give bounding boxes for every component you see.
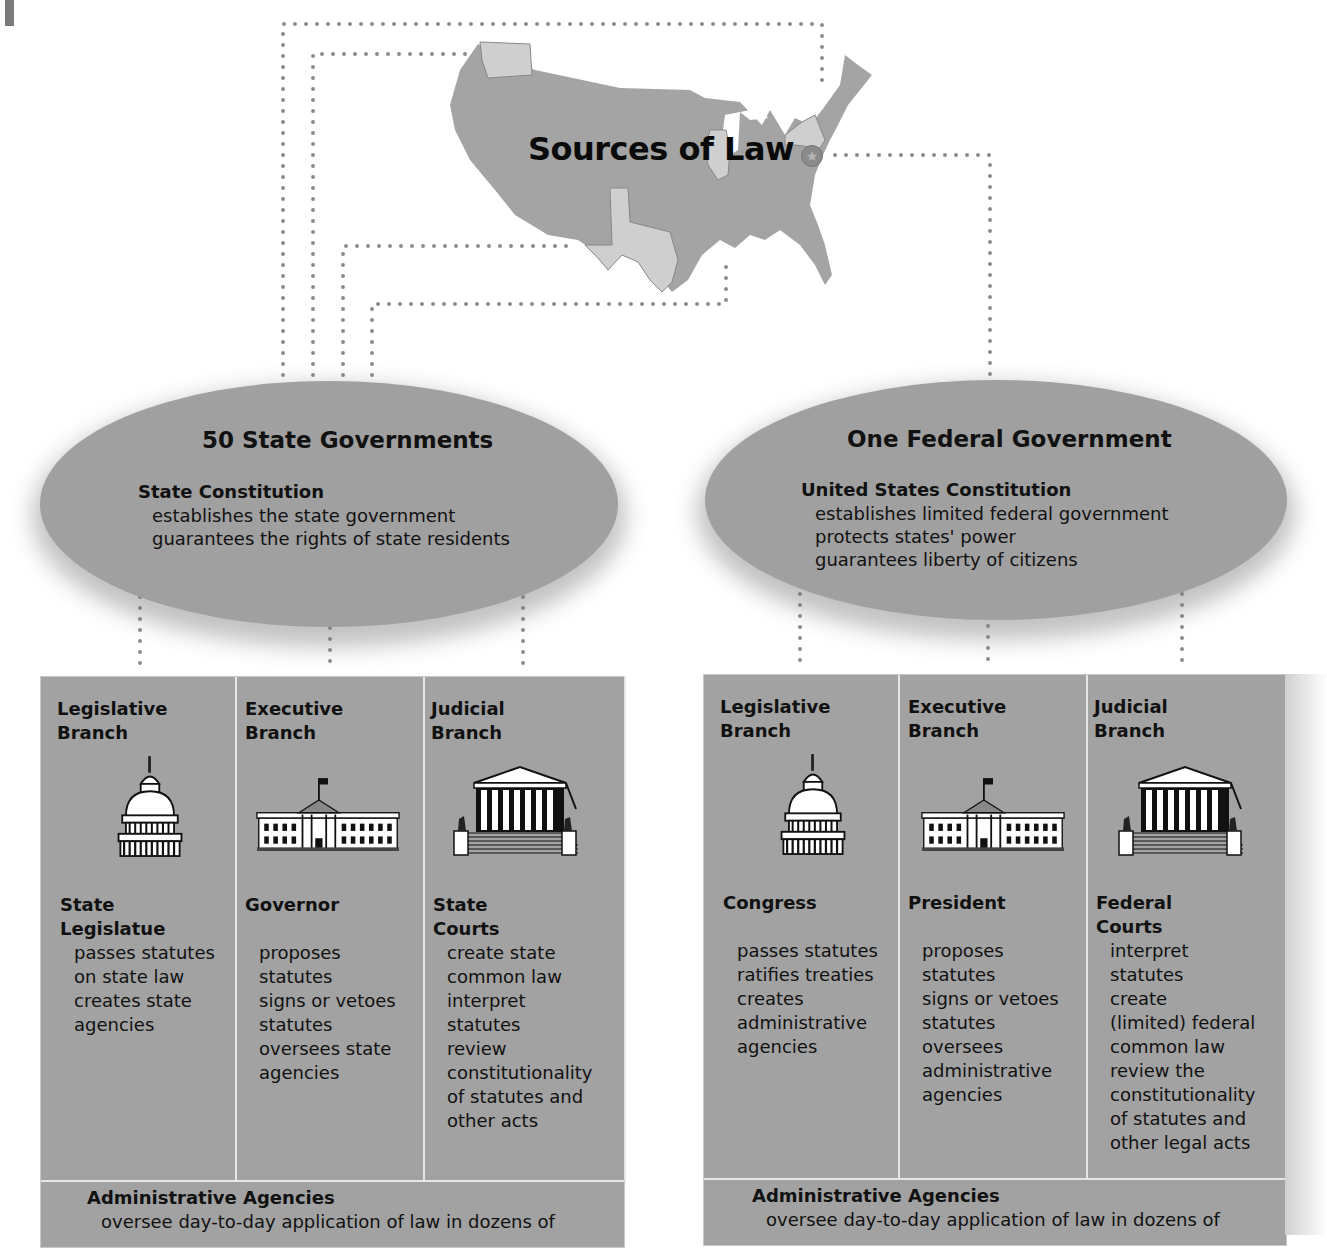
state-executive-column: Executive Branch Governor proposes statu…	[237, 677, 425, 1180]
capital-star-icon: ★	[801, 145, 823, 167]
branch-title: Executive Branch	[908, 695, 1006, 743]
state-judicial-column: Judicial Branch State Courts create stat…	[425, 677, 626, 1180]
state-constitution-line: guarantees the rights of state residents	[152, 528, 510, 549]
supreme-court-icon	[1114, 761, 1246, 861]
branch-actor: State Legislatue	[60, 893, 165, 941]
state-agencies-text: oversee day-to-day application of law in…	[101, 1211, 555, 1232]
branch-actor: President	[908, 891, 1006, 915]
branch-title: Judicial Branch	[1094, 695, 1168, 743]
branch-duties: proposes statutes signs or vetoes statut…	[259, 941, 396, 1085]
branch-title: Legislative Branch	[57, 697, 167, 745]
branch-actor: Governor	[245, 893, 339, 917]
us-constitution-line: guarantees liberty of citizens	[815, 549, 1078, 570]
branch-actor: Federal Courts	[1096, 891, 1172, 939]
state-branches-panel: Legislative Branch State Legislatue pass…	[40, 676, 625, 1248]
federal-government-title: One Federal Government	[847, 426, 1172, 452]
branch-duties: create state common law interpret statut…	[447, 941, 592, 1133]
page-edge-fade	[1285, 674, 1327, 1235]
page-corner-mark	[5, 0, 14, 26]
branch-actor: State Courts	[433, 893, 500, 941]
capitol-dome-icon	[113, 755, 187, 859]
main-title: Sources of Law	[528, 130, 794, 168]
us-constitution-line: establishes limited federal government	[815, 503, 1169, 524]
capitol-dome-icon	[776, 753, 850, 857]
state-agencies-title: Administrative Agencies	[87, 1187, 335, 1208]
federal-government-oval: One Federal Government United States Con…	[705, 380, 1287, 620]
federal-agencies-text: oversee day-to-day application of law in…	[766, 1209, 1220, 1230]
washington-state	[480, 42, 532, 78]
branch-title: Judicial Branch	[431, 697, 505, 745]
branch-title: Legislative Branch	[720, 695, 830, 743]
state-constitution-title: State Constitution	[138, 481, 324, 502]
state-constitution-line: establishes the state government	[152, 505, 455, 526]
branch-duties: interpret statutes create (limited) fede…	[1110, 939, 1255, 1155]
state-governments-title: 50 State Governments	[202, 427, 493, 453]
white-house-icon	[912, 769, 1074, 851]
federal-legislative-column: Legislative Branch Congress passes statu…	[704, 675, 900, 1178]
branch-duties: passes statutes ratifies treaties create…	[737, 939, 878, 1059]
federal-judicial-column: Judicial Branch Federal Courts interpret…	[1088, 675, 1288, 1178]
federal-branches-panel: Legislative Branch Congress passes statu…	[703, 674, 1287, 1246]
state-legislative-column: Legislative Branch State Legislatue pass…	[41, 677, 237, 1180]
branch-actor: Congress	[723, 891, 817, 915]
us-constitution-title: United States Constitution	[801, 479, 1071, 500]
federal-executive-column: Executive Branch President proposes stat…	[900, 675, 1088, 1178]
white-house-icon	[247, 769, 409, 851]
federal-agencies-title: Administrative Agencies	[752, 1185, 1000, 1206]
supreme-court-icon	[449, 761, 581, 861]
branch-duties: proposes statutes signs or vetoes statut…	[922, 939, 1059, 1107]
state-governments-oval: 50 State Governments State Constitution …	[40, 381, 618, 627]
agency-divider	[704, 1178, 1286, 1180]
branch-duties: passes statutes on state law creates sta…	[74, 941, 215, 1037]
branch-title: Executive Branch	[245, 697, 343, 745]
agency-divider	[41, 1180, 624, 1182]
us-constitution-line: protects states' power	[815, 526, 1016, 547]
